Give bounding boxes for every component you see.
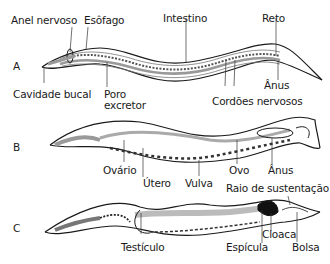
panel-letter-b: B [13,141,20,153]
label-reto: Reto [262,13,285,24]
label-utero: Útero [143,178,171,189]
label-raio-sustentacao: Raio de sustentação [226,183,329,194]
label-poro-excretor-line2: excretor [104,100,146,111]
label-ovario: Ovário [103,165,136,176]
panel-letter-c: C [13,222,20,234]
label-anus-b: Ânus [268,165,293,176]
label-cavidade-bucal: Cavidade bucal [13,89,91,100]
label-cordoes-nervosos: Cordões nervosos [212,96,302,107]
label-intestino: Intestino [163,13,207,24]
label-vulva: Vulva [185,178,213,189]
leader-lines-b [124,138,272,177]
label-ovo: Ovo [229,165,249,176]
panel-letter-a: A [13,60,20,72]
worm-a [42,44,322,81]
label-cloaca: Cloaca [262,229,296,240]
label-esofago: Esôfago [84,15,124,26]
nematode-diagram: A B C Anel nervoso Esôfago Intestino Ret… [0,0,330,264]
leader-lines-a [44,18,278,87]
label-espicula: Espícula [226,242,268,253]
worm-b [50,117,320,162]
label-testiculo: Testículo [121,242,165,253]
worm-illustrations [0,0,330,264]
label-anel-nervoso: Anel nervoso [11,15,77,26]
label-bolsa: Bolsa [292,242,319,253]
label-anus-a: Ânus [264,80,289,91]
